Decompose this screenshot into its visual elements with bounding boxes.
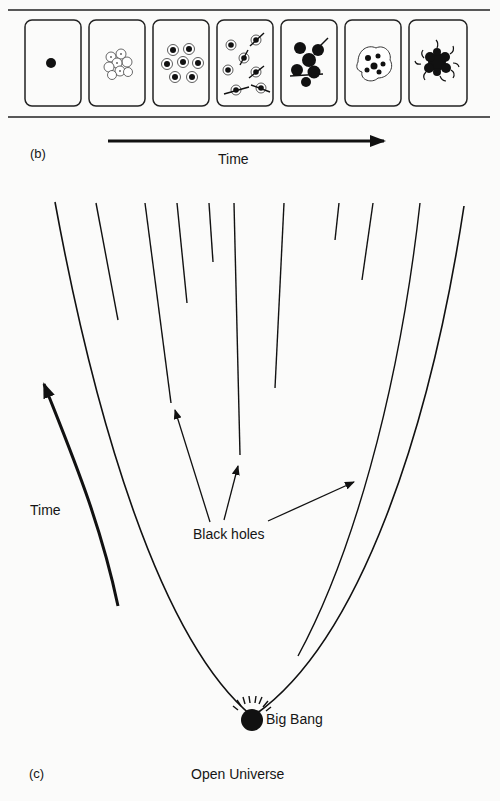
universe-boundary-left [55, 202, 252, 716]
big-bang-label: Big Bang [266, 711, 323, 727]
panel-b-label: (b) [30, 146, 46, 161]
panel-c-title: Open Universe [191, 766, 284, 782]
panel-c-worldlines [55, 202, 464, 716]
universe-boundary-right [256, 206, 464, 714]
panel-c-label: (c) [29, 766, 44, 781]
frame-1 [25, 20, 81, 106]
black-hole-arrows [175, 410, 354, 522]
frame-7 [409, 20, 467, 106]
worldline-right-inner [298, 203, 420, 656]
diagram-canvas [0, 0, 500, 801]
frame-6 [345, 20, 401, 106]
time-label-vertical: Time [30, 502, 61, 518]
figure-page: (b) Time Time Black holes Big Bang (c) O… [0, 0, 500, 801]
time-arrow-curved [44, 384, 118, 606]
black-holes-label: Black holes [193, 526, 265, 542]
panel-b-filmstrip [8, 10, 490, 117]
frame-4 [217, 20, 273, 106]
frame-5 [281, 20, 337, 106]
frame-3 [153, 20, 209, 106]
frame-2 [89, 20, 145, 106]
time-label-horizontal: Time [218, 151, 249, 167]
